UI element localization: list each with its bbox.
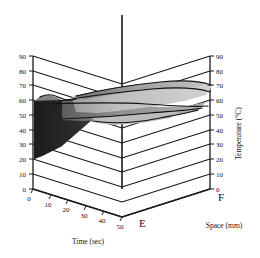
gridline-right-z30 [122,144,210,172]
ticklabel-left-z20: 20 [19,156,27,164]
ticklabel-left-z40: 40 [19,127,27,135]
ticklabel-right-z90: 90 [216,53,224,61]
tickmark-time-30 [84,206,86,210]
ticklabel-time-20: 20 [63,206,71,214]
ticklabel-left-z90: 90 [19,53,27,61]
ticklabel-left-z0: 0 [23,186,27,194]
x-axis-title: Time (sec) [72,237,105,246]
tickmark-time-10 [49,195,51,199]
gridline-left-z90 [33,56,122,84]
ticklabel-right-z30: 30 [216,141,224,149]
gridline-left-z10 [33,174,122,202]
ticklabel-right-z50: 50 [216,112,224,120]
ticklabel-right-z40: 40 [216,127,224,135]
corner-marker-f: F [218,191,224,203]
ticklabel-time-0: 0 [27,195,31,203]
ticklabel-right-z60: 60 [216,97,224,105]
figure-3d-surface-plot: 0 10 20 30 40 50 60 70 80 90 0 10 20 [0,0,260,258]
ticklabel-right-z80: 80 [216,68,224,76]
tickmark-time-50 [120,217,122,221]
ticklabel-time-10: 10 [45,201,53,209]
y-axis-title: Space (mm) [206,221,243,230]
tickmark-time-0 [31,189,33,193]
z-axis-title: Temperature (°C) [234,107,243,160]
gridline-right-z20 [122,159,210,187]
y-axis-space: E F Space (mm) [139,191,243,230]
z-axis-left: 0 10 20 30 40 50 60 70 80 90 [19,53,33,194]
ticklabel-time-40: 40 [99,217,107,225]
ticklabel-right-z20: 20 [216,156,224,164]
gridline-left-z20 [33,159,122,187]
ticklabel-left-z30: 30 [19,141,27,149]
surface-plot-canvas: 0 10 20 30 40 50 60 70 80 90 0 10 20 [0,0,260,258]
ticklabel-left-z60: 60 [19,97,27,105]
tickmark-time-20 [66,200,68,204]
gridline-right-z40 [122,130,210,158]
temperature-surface [34,81,212,159]
floor-edge-space [122,189,210,217]
ticklabel-time-30: 30 [81,212,89,220]
ticklabel-left-z10: 10 [19,171,27,179]
ticklabel-right-z10: 10 [216,171,224,179]
ticklabel-left-z80: 80 [19,68,27,76]
ticklabel-time-50: 50 [117,223,125,231]
ticklabel-left-z70: 70 [19,82,27,90]
corner-marker-e: E [139,217,146,229]
gridline-right-z10 [122,174,210,202]
ticklabel-left-z50: 50 [19,112,27,120]
gridline-right-z90 [122,56,210,84]
ticklabel-right-z70: 70 [216,82,224,90]
z-axis-right: 0 10 20 30 40 50 60 70 80 90 Temperature… [210,53,243,194]
